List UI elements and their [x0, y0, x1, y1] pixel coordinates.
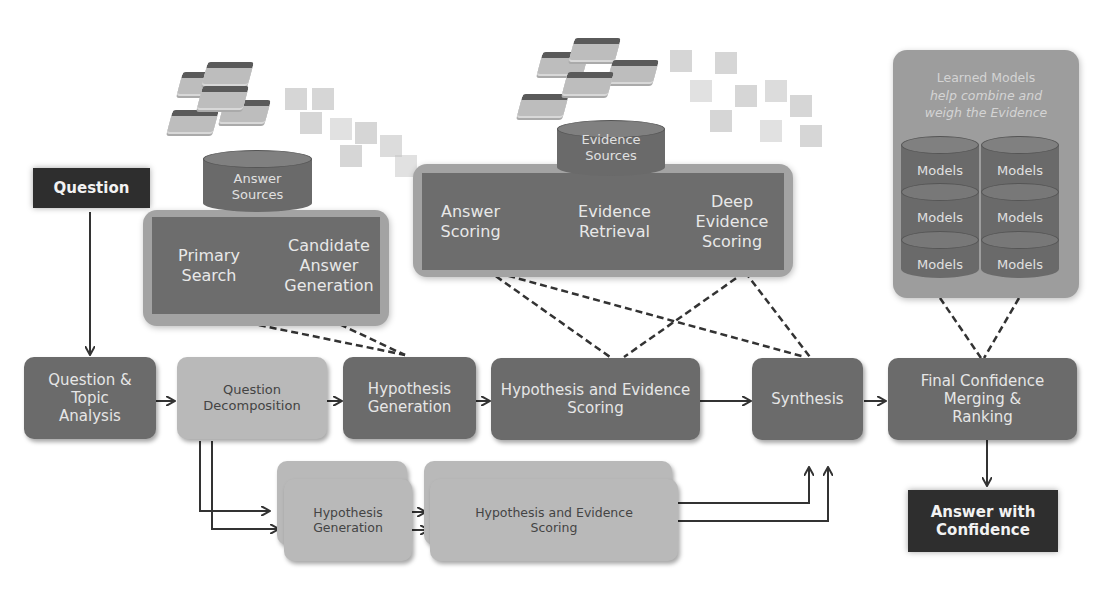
question-node: Question — [33, 168, 150, 208]
question-topic-analysis-node: Question &TopicAnalysis — [24, 357, 156, 439]
question-label: Question — [54, 179, 130, 197]
evidence-sources-database-icon: EvidenceSources — [557, 120, 665, 175]
hypothesis-generation-parallel-node: HypothesisGeneration — [284, 479, 412, 561]
learned-models-caption: Learned Models help combine and weigh th… — [893, 69, 1079, 122]
primary-search-step: PrimarySearch — [152, 217, 266, 314]
evidence-retrieval-step: EvidenceRetrieval — [549, 173, 680, 270]
hypothesis-evidence-scoring-parallel-node: Hypothesis and EvidenceScoring — [430, 479, 678, 561]
hypothesis-generation-node: HypothesisGeneration — [343, 357, 476, 439]
deep-evidence-scoring-step: DeepEvidenceScoring — [680, 173, 784, 270]
question-decomposition-node: QuestionDecomposition — [177, 357, 327, 439]
candidate-answer-generation-step: CandidateAnswerGeneration — [266, 217, 380, 314]
answer-with-confidence-node: Answer withConfidence — [908, 490, 1058, 552]
final-confidence-merging-ranking-node: Final ConfidenceMerging &Ranking — [888, 358, 1077, 440]
synthesis-node: Synthesis — [752, 358, 863, 440]
answer-sources-database-icon: AnswerSources — [203, 150, 312, 212]
answer-scoring-step: AnswerScoring — [422, 173, 549, 270]
models-database-icon: Models Models Models — [981, 136, 1059, 286]
models-database-icon: Models Models Models — [901, 136, 979, 286]
hypothesis-evidence-scoring-node: Hypothesis and EvidenceScoring — [491, 358, 700, 440]
